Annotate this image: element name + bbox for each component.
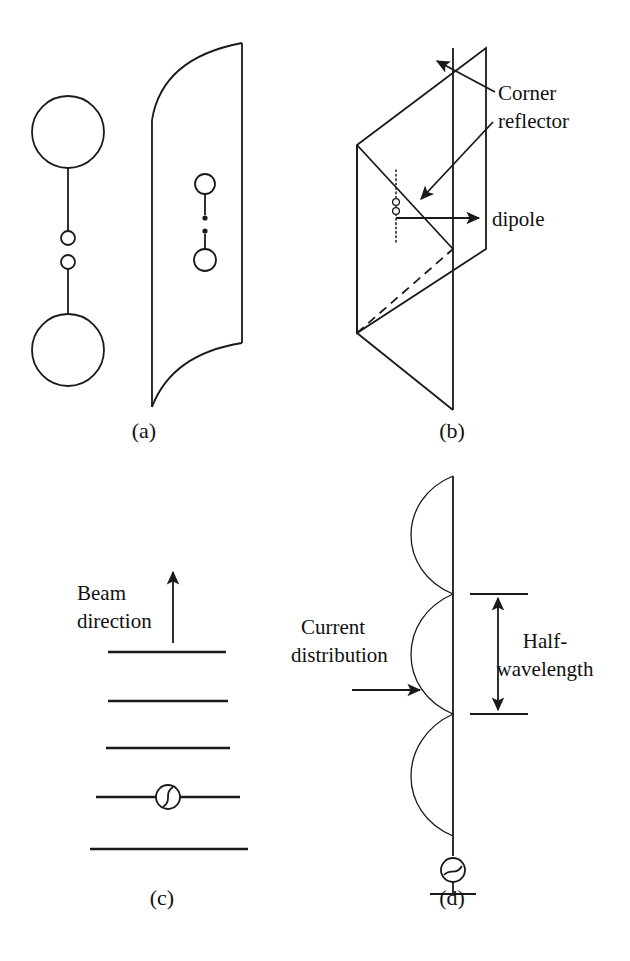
panel-c-caption: (c) — [150, 885, 174, 910]
corner-reflector-hidden-edge — [357, 249, 453, 333]
half-wavelength-label-line2: wavelength — [497, 657, 594, 681]
antenna-feed-source-icon — [441, 858, 465, 882]
dish-front-view — [152, 43, 242, 407]
dish-side-view — [32, 96, 104, 386]
panel-c-group: Beam direction (c) — [77, 572, 248, 910]
feed-upper-circle-icon — [195, 174, 215, 194]
half-wavelength-label-line1: Half- — [523, 629, 567, 653]
corner-reflector-lower-edge — [357, 333, 453, 410]
antenna-figure: (a) Corner — [0, 0, 630, 961]
feed-upper-dot-icon — [202, 215, 207, 220]
current-lobe-1 — [411, 476, 453, 594]
feed-lower-circle-icon — [194, 249, 216, 271]
panel-a-group: (a) — [32, 43, 242, 443]
dish-lower-disc-icon — [32, 314, 104, 386]
panel-b-caption: (b) — [439, 418, 465, 443]
dish-lower-node-icon — [61, 255, 75, 269]
panel-a-caption: (a) — [132, 418, 156, 443]
figure-canvas: (a) Corner — [0, 0, 630, 961]
corner-reflector-back-plate — [357, 48, 486, 333]
corner-reflector-leader-lower — [421, 122, 493, 199]
dipole-node-lower-icon — [393, 208, 400, 215]
dish-upper-node-icon — [61, 231, 75, 245]
panel-d-caption: (d) — [439, 885, 465, 910]
dipole-label: dipole — [492, 207, 545, 231]
panel-d-group: Current distribution Half- wavelength (d… — [291, 476, 594, 910]
corner-reflector-label-line1: Corner — [498, 81, 556, 105]
dipole-node-upper-icon — [393, 199, 400, 206]
beam-direction-label-line1: Beam — [77, 581, 126, 605]
beam-direction-label-line2: direction — [77, 609, 152, 633]
current-lobe-2 — [411, 594, 453, 714]
dish-bottom-curve — [152, 343, 242, 407]
current-distribution-label-line1: Current — [301, 615, 365, 639]
dish-upper-disc-icon — [32, 96, 104, 168]
dish-top-curve — [152, 43, 242, 120]
dish-feed-dipole — [194, 174, 216, 271]
corner-reflector-dipole — [393, 170, 400, 243]
current-lobe-3 — [411, 714, 453, 836]
corner-reflector-fold-ridge — [357, 145, 453, 249]
current-distribution-label-line2: distribution — [291, 643, 388, 667]
feed-lower-dot-icon — [202, 228, 207, 233]
corner-reflector-label-line2: reflector — [498, 109, 569, 133]
panel-b-group: Corner reflector dipole (b) — [357, 48, 569, 443]
